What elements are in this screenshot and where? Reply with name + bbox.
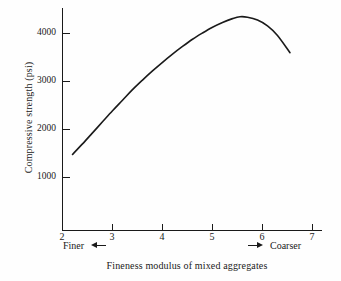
x-tick-label-4: 4 — [153, 231, 171, 242]
coarser-direction-note: Coarser — [246, 240, 301, 251]
y-tick-label-1000: 1000 — [22, 171, 56, 181]
y-tick-label-4000: 4000 — [22, 27, 56, 37]
finer-label: Finer — [63, 240, 84, 251]
y-tick-label-2000: 2000 — [22, 123, 56, 133]
x-tick-label-5: 5 — [203, 231, 221, 242]
x-axis-ticks — [63, 224, 313, 231]
y-axis-ticks — [63, 34, 70, 178]
y-tick-label-3000: 3000 — [22, 75, 56, 85]
figure-container: Compressive strength (psi) Fineness modu… — [0, 0, 341, 281]
x-tick-label-7: 7 — [303, 231, 321, 242]
arrow-right-icon — [246, 242, 263, 249]
data-curve-compressive-strength — [73, 17, 291, 155]
arrow-left-icon — [91, 242, 108, 249]
axis-spines — [63, 8, 323, 231]
x-axis-title: Fineness modulus of mixed aggregates — [62, 260, 312, 271]
y-axis-title: Compressive strength (psi) — [23, 43, 34, 193]
finer-direction-note: Finer — [63, 240, 108, 251]
coarser-label: Coarser — [270, 240, 301, 251]
